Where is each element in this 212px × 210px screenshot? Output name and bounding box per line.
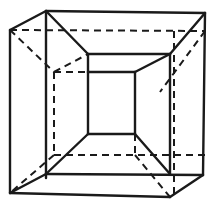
solid-edge [46,11,88,54]
solid-edge [46,174,203,175]
dashed-edge [10,30,205,31]
dashed-edge [135,155,170,197]
dashed-edge [54,54,88,72]
solid-edge [203,13,205,175]
dashed-edge [10,30,54,72]
solid-edge [135,54,170,72]
solid-edge [10,174,46,193]
solid-edge [10,193,170,197]
solid-edge [46,11,205,13]
visible-edges [10,11,205,197]
tesseract-diagram [0,0,212,210]
solid-edge [170,13,205,54]
solid-edge [10,11,46,30]
